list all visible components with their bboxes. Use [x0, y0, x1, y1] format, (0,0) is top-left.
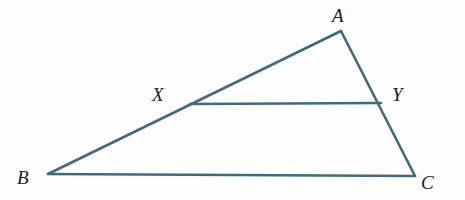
vertex-label-a: A — [332, 6, 344, 25]
vertex-label-y: Y — [392, 85, 403, 104]
vertex-label-c: C — [421, 173, 434, 192]
vertex-label-b: B — [17, 168, 29, 187]
segment-bc — [48, 174, 415, 176]
segment-xy — [190, 103, 381, 104]
geometry-figure: A B C X Y — [0, 0, 465, 200]
segment-group — [48, 31, 415, 176]
vertex-label-x: X — [152, 85, 164, 104]
